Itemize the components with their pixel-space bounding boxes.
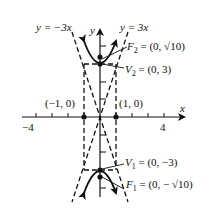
point-pos1-dot bbox=[113, 114, 118, 119]
x-tick-4-label: 4 bbox=[160, 121, 166, 133]
hyperbola-diagram: y = −3x y = 3x y x −4 4 (−1, 0) (1, 0) F… bbox=[0, 0, 217, 208]
x-axis bbox=[22, 113, 184, 117]
f2-label: F2 = (0, √10) bbox=[126, 40, 185, 55]
f1-label: F1 = (0, − √10) bbox=[125, 178, 193, 193]
x-tick-neg4-label: −4 bbox=[22, 121, 34, 133]
vertex-v2-dot bbox=[97, 61, 102, 66]
point-pos1-label: (1, 0) bbox=[119, 97, 143, 110]
asymptote-right-label: y = 3x bbox=[119, 21, 148, 33]
y-axis-label: y bbox=[89, 24, 95, 36]
point-neg1-dot bbox=[81, 114, 86, 119]
v1-label: V1 = (0, −3) bbox=[125, 156, 178, 171]
focus-f1-dot bbox=[97, 174, 102, 179]
asymptote-left-label: y = −3x bbox=[35, 21, 72, 33]
point-neg1-label: (−1, 0) bbox=[45, 97, 75, 110]
focus-f2-dot bbox=[97, 54, 102, 59]
v2-label: V2 = (0, 3) bbox=[125, 63, 172, 78]
diagram-canvas: y = −3x y = 3x y x −4 4 (−1, 0) (1, 0) F… bbox=[0, 0, 217, 208]
vertex-v1-dot bbox=[97, 167, 102, 172]
x-axis-label: x bbox=[179, 102, 185, 114]
